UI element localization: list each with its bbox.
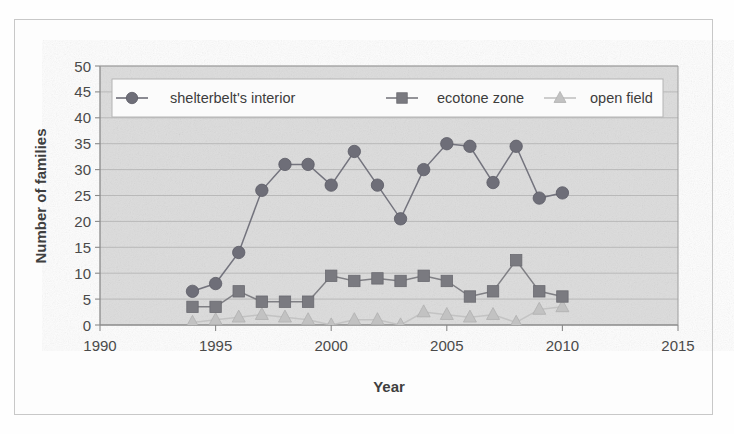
chart-legend: shelterbelt's interiorecotone zoneopen f… bbox=[112, 79, 663, 117]
data-point-circle bbox=[302, 158, 314, 170]
data-point-square bbox=[326, 270, 337, 281]
data-point-square bbox=[534, 286, 545, 297]
data-point-circle bbox=[348, 145, 360, 157]
y-axis-title: Number of families bbox=[32, 128, 49, 263]
y-axis-tick-labels: 05101520253035404550 bbox=[74, 58, 91, 334]
x-tick-label: 2010 bbox=[546, 337, 579, 354]
data-point-square bbox=[279, 296, 290, 307]
data-point-square bbox=[487, 286, 498, 297]
x-tick-label: 2015 bbox=[661, 337, 694, 354]
data-point-circle bbox=[533, 192, 545, 204]
x-axis-tick-labels: 199019952000200520102015 bbox=[83, 337, 694, 354]
scanned-figure-page: 05101520253035404550 1990199520002005201… bbox=[0, 0, 734, 434]
legend-label: shelterbelt's interior bbox=[170, 90, 295, 106]
data-point-square bbox=[187, 301, 198, 312]
data-point-circle bbox=[325, 179, 337, 191]
data-point-circle bbox=[256, 184, 268, 196]
line-chart-svg: 05101520253035404550 1990199520002005201… bbox=[0, 0, 734, 434]
data-point-circle bbox=[371, 179, 383, 191]
data-point-circle bbox=[487, 176, 499, 188]
data-point-circle bbox=[464, 140, 476, 152]
y-tick-label: 30 bbox=[74, 161, 91, 178]
legend-label: open field bbox=[590, 90, 653, 106]
legend-entry[interactable]: ecotone zone bbox=[386, 90, 524, 106]
data-point-square bbox=[397, 93, 407, 103]
data-point-circle bbox=[394, 213, 406, 225]
data-point-circle bbox=[556, 187, 568, 199]
data-point-circle bbox=[209, 277, 221, 289]
data-point-circle bbox=[186, 285, 198, 297]
y-tick-label: 15 bbox=[74, 239, 91, 256]
x-tick-label: 1995 bbox=[199, 337, 232, 354]
x-tick-label: 2005 bbox=[430, 337, 463, 354]
y-tick-label: 25 bbox=[74, 187, 91, 204]
data-point-square bbox=[510, 255, 521, 266]
data-point-circle bbox=[233, 246, 245, 258]
y-tick-label: 10 bbox=[74, 265, 91, 282]
chart-container: 05101520253035404550 1990199520002005201… bbox=[0, 0, 734, 434]
legend-square-marker-icon bbox=[397, 93, 407, 103]
y-tick-label: 45 bbox=[74, 83, 91, 100]
x-tick-label: 1990 bbox=[83, 337, 116, 354]
data-point-circle bbox=[126, 92, 137, 103]
data-point-circle bbox=[441, 138, 453, 150]
y-tick-label: 0 bbox=[83, 317, 91, 334]
y-tick-label: 20 bbox=[74, 213, 91, 230]
x-tick-label: 2000 bbox=[315, 337, 348, 354]
data-point-square bbox=[256, 296, 267, 307]
data-point-square bbox=[441, 275, 452, 286]
data-point-square bbox=[418, 270, 429, 281]
y-tick-label: 40 bbox=[74, 109, 91, 126]
x-axis-tick-marks bbox=[100, 325, 678, 331]
data-point-square bbox=[372, 273, 383, 284]
y-tick-label: 5 bbox=[83, 291, 91, 308]
y-tick-label: 35 bbox=[74, 135, 91, 152]
data-point-square bbox=[233, 286, 244, 297]
legend-circle-marker-icon bbox=[126, 92, 137, 103]
data-point-circle bbox=[279, 158, 291, 170]
data-point-square bbox=[210, 301, 221, 312]
data-point-circle bbox=[417, 163, 429, 175]
data-point-square bbox=[349, 275, 360, 286]
data-point-circle bbox=[510, 140, 522, 152]
data-point-square bbox=[395, 275, 406, 286]
y-tick-label: 50 bbox=[74, 58, 91, 75]
legend-label: ecotone zone bbox=[437, 90, 524, 106]
x-axis-title: Year bbox=[373, 378, 405, 395]
data-point-square bbox=[557, 291, 568, 302]
data-point-square bbox=[464, 291, 475, 302]
data-point-square bbox=[302, 296, 313, 307]
